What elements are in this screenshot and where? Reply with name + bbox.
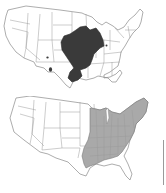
range-map-bottom bbox=[0, 96, 166, 193]
page-edge-line bbox=[163, 140, 164, 185]
range-map-top bbox=[0, 0, 166, 96]
oklahoma-spot bbox=[46, 57, 48, 59]
us-map-bottom bbox=[0, 96, 166, 193]
ohio-spot bbox=[106, 45, 108, 47]
texas-spot bbox=[49, 67, 52, 71]
us-map-top bbox=[0, 0, 166, 96]
